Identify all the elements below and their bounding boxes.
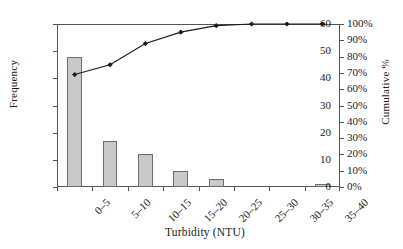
y-right-tick [340,187,344,188]
y-right-tick-label: 0% [347,181,391,192]
y-right-tick-label: 100% [347,18,391,29]
y-right-tick [340,73,344,74]
cumulative-line-layer [57,24,340,187]
cumulative-marker [72,72,77,77]
x-tick [128,187,129,191]
x-tick-label: 0–5 [92,196,112,216]
x-tick [163,187,164,191]
y-right-tick [340,24,344,25]
y-right-tick [340,106,344,107]
y-right-tick-label: 70% [347,67,391,78]
cumulative-marker [107,62,112,67]
y-right-tick-label: 10% [347,165,391,176]
y-right-tick-label: 60% [347,83,391,94]
cumulative-line [75,24,323,75]
y-axis-left-title: Frequency [7,24,19,144]
histogram-cumulative-chart: Frequency Cumulative % Turbidity (NTU) 0… [0,0,403,249]
x-tick [269,187,270,191]
cumulative-marker [249,21,254,26]
y-right-tick [340,154,344,155]
x-tick-label: 25–30 [272,196,300,224]
y-right-tick-label: 40% [347,116,391,127]
y-right-tick-label: 30% [347,132,391,143]
x-tick [339,187,340,191]
y-right-tick-label: 90% [347,34,391,45]
y-right-tick [340,89,344,90]
x-axis-title: Turbidity (NTU) [60,226,350,238]
y-right-tick [340,57,344,58]
y-right-tick [340,138,344,139]
x-tick-label: 30–35 [307,196,335,224]
x-tick [57,187,58,191]
plot-area: 0102030405060 0%10%20%30%40%50%60%70%80%… [57,24,340,187]
x-tick-label: 35–40 [343,196,371,224]
x-tick [305,187,306,191]
y-right-tick [340,40,344,41]
y-right-tick-label: 20% [347,148,391,159]
y-right-tick [340,122,344,123]
cumulative-marker [284,21,289,26]
y-right-tick-label: 50% [347,100,391,111]
x-tick [199,187,200,191]
cumulative-marker [178,30,183,35]
x-tick-label: 15–20 [201,196,229,224]
cumulative-marker [214,23,219,28]
y-right-tick-label: 80% [347,51,391,62]
cumulative-marker [143,41,148,46]
x-tick-label: 20–25 [236,196,264,224]
x-tick [92,187,93,191]
x-tick-label: 10–15 [166,196,194,224]
y-right-tick [340,171,344,172]
x-tick [234,187,235,191]
x-tick-label: 5–10 [129,196,153,220]
